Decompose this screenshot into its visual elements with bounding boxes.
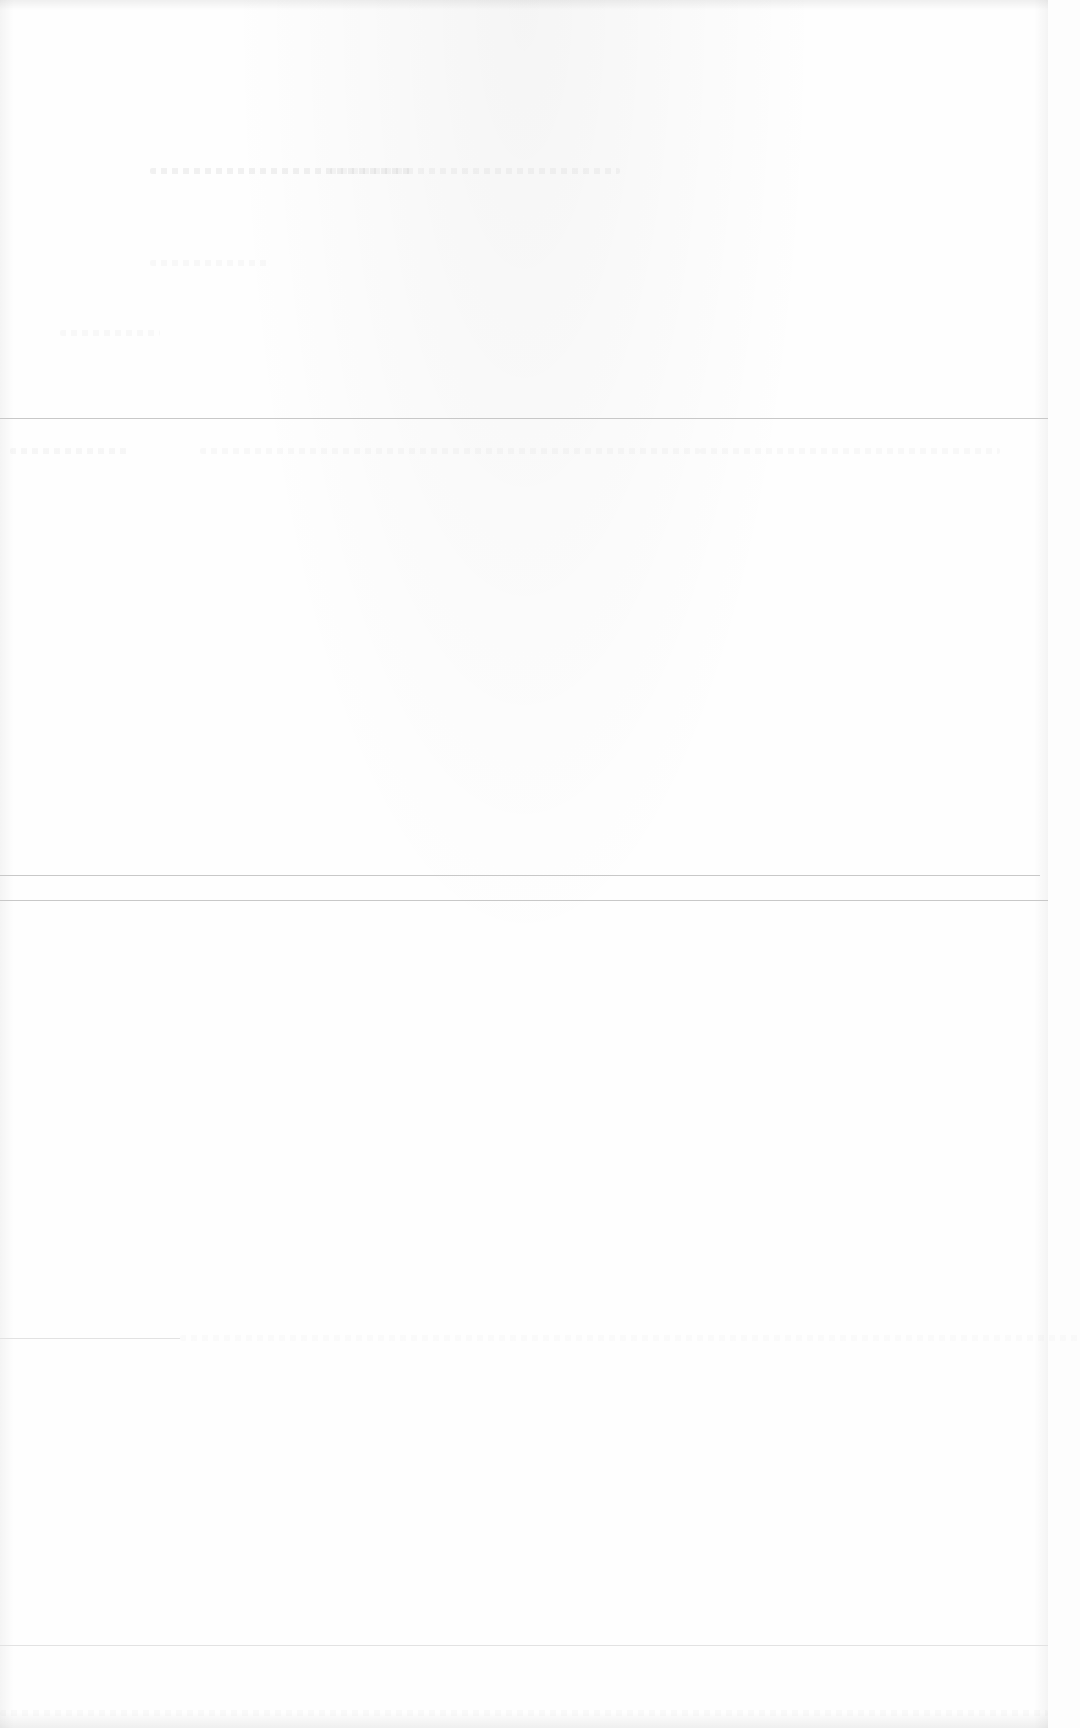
- illegible-text-line: [200, 448, 700, 454]
- illegible-text-line: [10, 448, 130, 454]
- horizontal-rule: [0, 418, 1048, 419]
- illegible-text-line: [700, 448, 1000, 454]
- horizontal-rule: [0, 900, 1048, 901]
- horizontal-rule: [0, 1645, 1048, 1646]
- horizontal-rule: [0, 1338, 180, 1339]
- page-top-edge: [0, 0, 1048, 10]
- page-bottom-edge: [0, 1712, 1048, 1728]
- illegible-text-line: [330, 168, 620, 174]
- horizontal-rule: [0, 875, 1040, 876]
- illegible-text-line: [60, 330, 160, 336]
- illegible-text-line: [180, 1335, 1080, 1341]
- illegible-text-line: [150, 260, 270, 266]
